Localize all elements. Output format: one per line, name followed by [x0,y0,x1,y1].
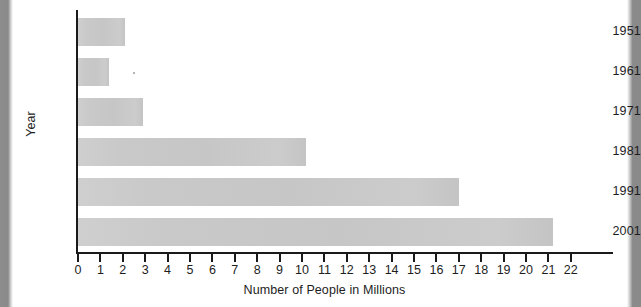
x-tick-21 [547,253,549,262]
x-tick-10 [301,253,303,262]
y-tick-label-2001: 2001 [569,224,641,238]
bar-fill-2001 [78,218,553,246]
scanned-page: 195119611971198119912001 012345678910111… [0,0,641,307]
x-tick-1 [99,253,101,262]
x-tick-11 [323,253,325,262]
x-tick-17 [458,253,460,262]
y-tick-label-1971: 1971 [569,104,641,118]
y-tick-label-1991: 1991 [569,184,641,198]
bar-1961 [0,58,641,86]
bar-1951 [0,18,641,46]
x-tick-8 [256,253,258,262]
x-tick-15 [413,253,415,262]
x-tick-9 [279,253,281,262]
x-tick-3 [144,253,146,262]
scan-speck [133,72,135,74]
x-tick-13 [368,253,370,262]
x-tick-5 [189,253,191,262]
x-tick-14 [391,253,393,262]
x-tick-19 [503,253,505,262]
y-tick-label-1981: 1981 [569,144,641,158]
x-tick-20 [525,253,527,262]
x-tick-4 [167,253,169,262]
bar-1991 [0,178,641,206]
x-tick-22 [570,253,572,262]
x-tick-6 [211,253,213,262]
bar-chart: 195119611971198119912001 012345678910111… [0,0,641,307]
bar-fill-1991 [78,178,459,206]
x-tick-18 [480,253,482,262]
x-tick-label-22: 22 [558,263,584,277]
y-axis-title: Year [24,111,38,136]
bar-fill-1951 [78,18,125,46]
x-tick-2 [122,253,124,262]
x-tick-16 [435,253,437,262]
x-tick-0 [77,253,79,262]
x-tick-7 [234,253,236,262]
x-axis-line [76,252,613,254]
bar-fill-1981 [78,138,306,166]
bar-fill-1971 [78,98,143,126]
x-tick-12 [346,253,348,262]
bar-fill-1961 [78,58,109,86]
x-axis-title: Number of People in Millions [78,283,571,297]
y-tick-label-1951: 1951 [569,24,641,38]
y-tick-label-1961: 1961 [569,64,641,78]
plot-area [78,12,571,252]
bar-1971 [0,98,641,126]
bar-2001 [0,218,641,246]
bar-1981 [0,138,641,166]
